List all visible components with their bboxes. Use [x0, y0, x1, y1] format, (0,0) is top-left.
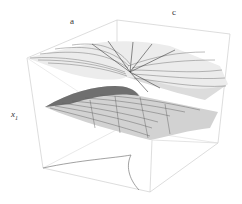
- axis-label-a: a: [70, 17, 74, 26]
- axis-label-x-sub: 1: [15, 115, 18, 121]
- axis-label-x1: x1: [11, 110, 18, 121]
- axis-label-c: c: [172, 8, 176, 17]
- cusp-surface-plot: [0, 0, 242, 204]
